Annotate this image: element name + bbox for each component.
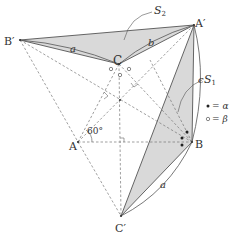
alpha-marker-3: [181, 144, 184, 147]
dash-a-cprime: [78, 142, 121, 216]
label-cprime: C′: [115, 222, 126, 235]
center-dot: [119, 99, 121, 101]
legend-open-dot-icon: [206, 117, 209, 120]
dash-bprime-a: [20, 40, 78, 142]
geometry-figure: B′ A′ C A B C′ a b c a S2 S1 60° = α = β: [0, 0, 234, 238]
label-side-b-top: b: [148, 37, 154, 48]
vertex-b-dot: [191, 141, 193, 143]
vertex-cprime-dot: [120, 215, 122, 217]
label-s1: S1: [204, 73, 216, 87]
legend-alpha: = α: [212, 101, 228, 111]
label-b: B: [195, 138, 203, 151]
right-angle-marker-2: [131, 83, 138, 87]
vertex-bprime-dot: [19, 39, 21, 41]
label-c: C: [113, 54, 122, 68]
dash-c-cprime: [119, 64, 121, 216]
label-a: A: [68, 140, 78, 153]
right-angle-marker-1: [104, 92, 108, 99]
vertex-a-dot: [77, 141, 79, 143]
label-side-a-top: a: [70, 43, 76, 54]
legend-filled-dot-icon: [207, 105, 210, 108]
label-angle-60: 60°: [87, 126, 103, 136]
legend-beta: = β: [212, 114, 228, 124]
alpha-marker-1: [186, 131, 189, 134]
beta-marker-2: [127, 67, 130, 70]
alpha-marker-2: [181, 137, 184, 140]
label-s2: S2: [154, 4, 166, 18]
label-bprime: B′: [4, 35, 15, 48]
label-side-a-bottom: a: [160, 179, 166, 190]
right-angle-marker-3: [120, 138, 124, 142]
label-aprime: A′: [194, 17, 206, 30]
beta-marker-3: [118, 73, 121, 76]
region-s2: [20, 25, 194, 64]
